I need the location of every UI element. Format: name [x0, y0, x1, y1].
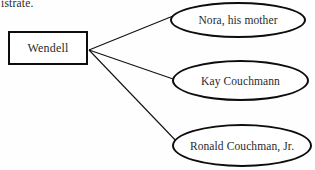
node-ronald-label: Ronald Couchman, Jr.: [190, 140, 294, 152]
connector-line-to-nora: [89, 14, 178, 50]
diagram-canvas: istrate. Wendell Nora, his mother Kay Co…: [0, 0, 315, 170]
node-ronald: Ronald Couchman, Jr.: [172, 124, 312, 167]
node-nora: Nora, his mother: [170, 2, 306, 38]
connector-line-to-kay: [89, 50, 176, 80]
node-wendell: Wendell: [8, 31, 88, 65]
node-kay: Kay Couchmann: [172, 60, 309, 101]
connector-line-to-ronald: [89, 50, 179, 144]
node-kay-label: Kay Couchmann: [201, 75, 280, 87]
node-wendell-label: Wendell: [27, 41, 68, 56]
node-nora-label: Nora, his mother: [198, 14, 277, 26]
